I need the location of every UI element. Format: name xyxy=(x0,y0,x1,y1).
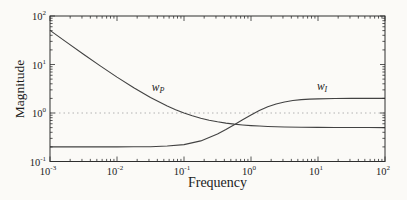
bode-magnitude-plot: 10-310-210-110010110210-1100101102 Frequ… xyxy=(0,0,407,200)
tick-labels-layer: 10-310-210-110010110210-1100101102 xyxy=(30,9,391,177)
y-tick-label: 101 xyxy=(32,58,47,71)
curves-layer xyxy=(50,30,385,147)
wP-label: wP xyxy=(152,81,165,95)
y-tick-label: 102 xyxy=(32,9,47,22)
x-tick-label: 10-3 xyxy=(40,164,57,177)
wI-label: wI xyxy=(317,80,328,94)
x-tick-label: 10-2 xyxy=(107,164,124,177)
ticks-layer xyxy=(50,16,385,162)
y-axis-label: Magnitude xyxy=(12,60,27,119)
wI-curve xyxy=(50,98,385,146)
x-tick-label: 102 xyxy=(376,164,391,177)
figure-container: 10-310-210-110010110210-1100101102 Frequ… xyxy=(0,0,407,200)
y-tick-label: 100 xyxy=(32,106,47,119)
x-axis-label: Frequency xyxy=(188,175,247,190)
x-tick-label: 101 xyxy=(309,164,324,177)
series-labels-layer: wPwI xyxy=(152,80,328,94)
plot-frame xyxy=(50,16,385,162)
